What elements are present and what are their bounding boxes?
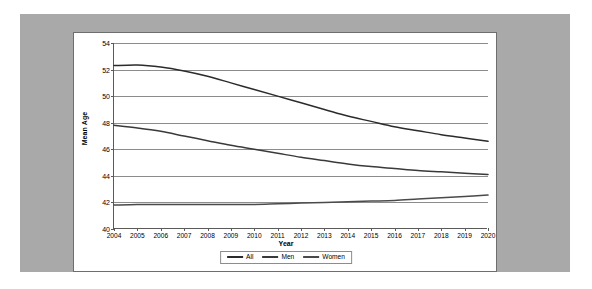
legend-item-women[interactable]: Women: [303, 254, 345, 261]
plot-area: 4042444648505254 20042005200620072008200…: [113, 43, 487, 229]
legend-item-men[interactable]: Men: [262, 254, 294, 261]
legend-line-swatch: [303, 256, 319, 258]
x-tick-label: 2016: [387, 233, 402, 240]
chart-card: Mean Age 4042444648505254 20042005200620…: [73, 32, 497, 272]
y-tick-label: 42: [102, 199, 110, 206]
x-tick-label: 2012: [294, 233, 309, 240]
x-tick-label: 2019: [457, 233, 472, 240]
x-axis-title: Year: [74, 240, 498, 247]
x-tick-label: 2011: [271, 233, 285, 240]
chart-figure: Mean Age 4042444648505254 20042005200620…: [74, 33, 498, 273]
x-tick-label: 2020: [481, 233, 496, 240]
y-tick-label: 52: [102, 66, 110, 73]
legend-line-swatch: [227, 256, 243, 258]
x-tick-label: 2005: [130, 233, 145, 240]
x-tick-label: 2013: [317, 233, 332, 240]
screenshot-root: Mean Age 4042444648505254 20042005200620…: [0, 0, 592, 289]
x-tick-label: 2017: [411, 233, 426, 240]
x-tick-label: 2006: [153, 233, 168, 240]
series-lines: [114, 43, 488, 229]
legend-label: Women: [322, 254, 345, 261]
legend-label: Men: [281, 254, 294, 261]
x-tick-mark: [488, 228, 489, 231]
legend-line-swatch: [262, 256, 278, 258]
x-tick-label: 2015: [364, 233, 379, 240]
x-tick-label: 2009: [224, 233, 239, 240]
y-tick-label: 48: [102, 119, 110, 126]
x-tick-label: 2008: [200, 233, 215, 240]
series-line-all: [114, 65, 488, 141]
y-tick-label: 44: [102, 172, 110, 179]
y-axis-title: Mean Age: [81, 99, 88, 159]
legend-item-all[interactable]: All: [227, 254, 253, 261]
x-tick-label: 2004: [107, 233, 122, 240]
x-tick-label: 2010: [247, 233, 262, 240]
y-tick-label: 46: [102, 146, 110, 153]
x-tick-label: 2007: [177, 233, 192, 240]
x-tick-label: 2014: [340, 233, 355, 240]
y-tick-label: 50: [102, 93, 110, 100]
series-line-women: [114, 195, 488, 205]
x-tick-label: 2018: [434, 233, 449, 240]
chart-legend: AllMenWomen: [220, 251, 352, 264]
y-tick-label: 54: [102, 40, 110, 47]
legend-label: All: [246, 254, 253, 261]
